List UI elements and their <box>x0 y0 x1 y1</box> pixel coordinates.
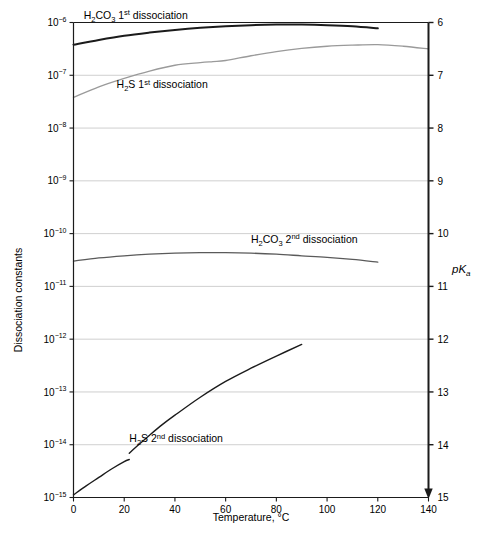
right-tick-label: 13 <box>438 387 450 398</box>
dissociation-constants-chart: 10−610−710−810−910−1010−1110−1210−1310−1… <box>0 0 492 539</box>
right-tick-label: 14 <box>438 440 450 451</box>
right-tick-label: 9 <box>438 176 444 187</box>
right-tick-label: 8 <box>438 123 444 134</box>
right-tick-label: 7 <box>438 70 444 81</box>
bottom-tick-label: 100 <box>319 504 336 515</box>
y-axis-title: Dissociation constants <box>12 248 24 352</box>
right-tick-label: 12 <box>438 334 450 345</box>
chart-figure: 10−610−710−810−910−1010−1110−1210−1310−1… <box>0 0 492 539</box>
bottom-tick-label: 120 <box>369 504 386 515</box>
x-axis-title: Temperature, °C <box>213 511 290 523</box>
bottom-tick-label: 140 <box>420 504 437 515</box>
bottom-tick-label: 20 <box>119 504 131 515</box>
bottom-tick-label: 0 <box>71 504 77 515</box>
right-tick-label: 11 <box>438 281 449 292</box>
right-tick-label: 10 <box>438 228 450 239</box>
right-tick-label: 15 <box>438 492 450 503</box>
right-tick-label: 6 <box>438 17 444 28</box>
bottom-tick-label: 40 <box>169 504 181 515</box>
